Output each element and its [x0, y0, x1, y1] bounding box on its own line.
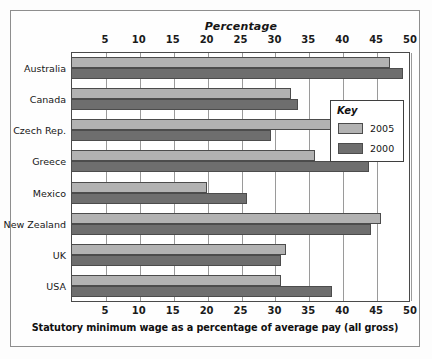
- bar-canada-2000: [71, 99, 298, 110]
- chart-caption: Statutory minimum wage as a percentage o…: [12, 322, 418, 333]
- tick-label-40: 40: [335, 305, 349, 316]
- category-label-mexico: Mexico: [0, 187, 66, 198]
- bar-czech-rep-2000: [71, 130, 271, 141]
- top-axis-title: Percentage: [71, 20, 411, 33]
- tick-label-40: 40: [335, 34, 349, 45]
- bar-row: [71, 271, 410, 302]
- bar-row: [71, 208, 410, 239]
- tick-label-20: 20: [200, 305, 214, 316]
- chart-figure: Percentage 5101520253035404550 Australia…: [0, 0, 432, 359]
- bar-australia-2000: [71, 68, 403, 79]
- legend-swatch-2005: [338, 123, 363, 134]
- bar-usa-2005: [71, 275, 281, 286]
- bar-greece-2005: [71, 150, 315, 161]
- tick-label-30: 30: [267, 305, 281, 316]
- tick-label-45: 45: [369, 305, 383, 316]
- legend-swatch-2000: [338, 143, 363, 154]
- bar-canada-2005: [71, 88, 291, 99]
- tick-label-15: 15: [166, 34, 180, 45]
- bar-mexico-2005: [71, 182, 207, 193]
- category-label-usa: USA: [0, 281, 66, 292]
- tick-label-25: 25: [234, 305, 248, 316]
- tick-label-30: 30: [267, 34, 281, 45]
- bar-czech-rep-2005: [71, 119, 332, 130]
- tick-label-25: 25: [234, 34, 248, 45]
- bar-mexico-2000: [71, 193, 247, 204]
- bar-row: [71, 177, 410, 208]
- bar-row: [71, 52, 410, 83]
- legend-label-2005: 2005: [370, 123, 394, 134]
- tick-label-10: 10: [132, 34, 146, 45]
- category-label-greece: Greece: [0, 156, 66, 167]
- bottom-axis-tick-labels: 5101520253035404550: [71, 305, 410, 319]
- tick-label-35: 35: [301, 305, 315, 316]
- category-label-uk: UK: [0, 250, 66, 261]
- bar-usa-2000: [71, 286, 332, 297]
- tick-label-35: 35: [301, 34, 315, 45]
- category-label-canada: Canada: [0, 93, 66, 104]
- tick-label-5: 5: [101, 34, 108, 45]
- bar-uk-2000: [71, 255, 281, 266]
- legend-label-2000: 2000: [370, 143, 394, 154]
- legend-title: Key: [337, 105, 358, 116]
- category-axis-labels: AustraliaCanadaCzech Rep.GreeceMexicoNew…: [0, 52, 66, 302]
- legend: Key 2005 2000: [330, 100, 404, 162]
- bar-new-zealand-2005: [71, 213, 381, 224]
- tick-label-10: 10: [132, 305, 146, 316]
- bar-new-zealand-2000: [71, 224, 371, 235]
- category-label-new-zealand: New Zealand: [0, 218, 66, 229]
- tick-label-50: 50: [403, 305, 417, 316]
- category-label-czech-rep: Czech Rep.: [0, 125, 66, 136]
- tick-label-5: 5: [101, 305, 108, 316]
- gridline-50: [411, 53, 412, 301]
- bar-greece-2000: [71, 161, 369, 172]
- top-axis-tick-labels: 5101520253035404550: [71, 34, 410, 48]
- tick-label-20: 20: [200, 34, 214, 45]
- bar-row: [71, 240, 410, 271]
- category-label-australia: Australia: [0, 62, 66, 73]
- tick-label-15: 15: [166, 305, 180, 316]
- tick-label-50: 50: [403, 34, 417, 45]
- bar-uk-2005: [71, 244, 286, 255]
- bar-series-group: [71, 52, 410, 302]
- tick-label-45: 45: [369, 34, 383, 45]
- bar-australia-2005: [71, 57, 390, 68]
